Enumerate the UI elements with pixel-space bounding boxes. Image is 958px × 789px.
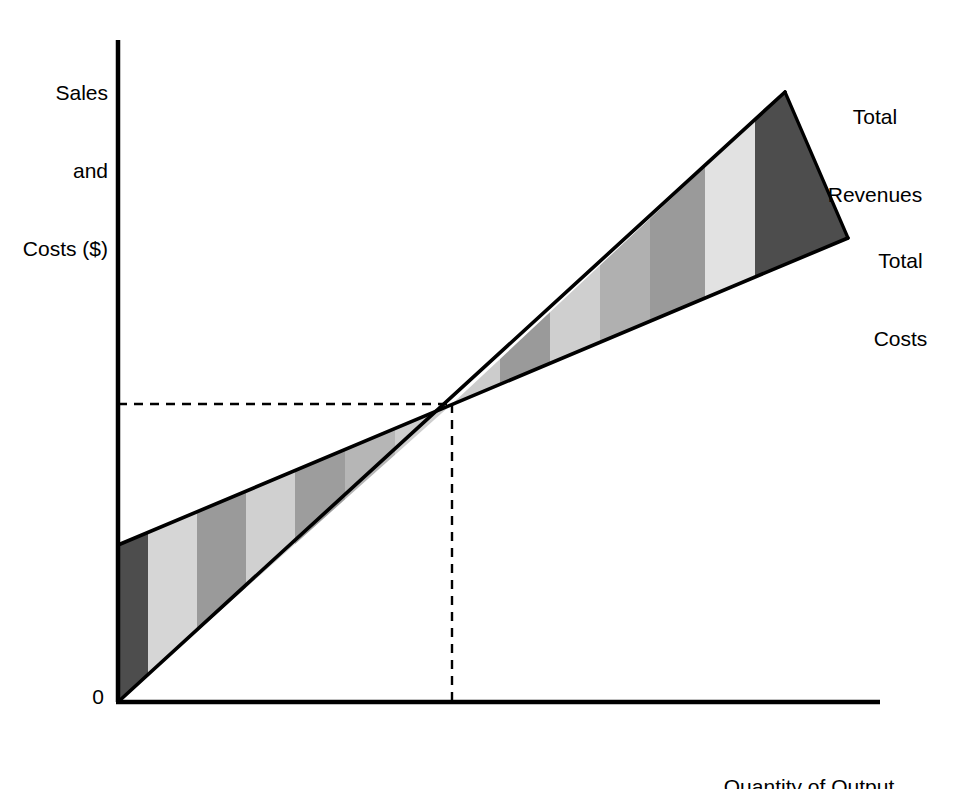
y-axis-label-line-1: Sales: [0, 80, 108, 106]
profit-band-1: [448, 60, 500, 420]
profit-band-3: [550, 60, 600, 420]
profit-band-6: [705, 60, 755, 420]
total-costs-label-line-1: Total: [848, 248, 953, 274]
loss-band-7: [395, 380, 455, 720]
origin-tick-label: 0: [74, 684, 104, 710]
loss-band-3: [197, 380, 246, 720]
profit-region: [448, 60, 853, 420]
total-costs-label-line-2: Costs: [848, 326, 953, 352]
loss-band-5: [295, 380, 345, 720]
loss-band-4: [246, 380, 295, 720]
y-axis-label: Sales and Costs ($): [0, 28, 108, 314]
total-revenues-line: [118, 92, 785, 702]
y-axis-label-line-3: Costs ($): [0, 236, 108, 262]
x-axis-label-line-1: Quantity of Output: [660, 774, 958, 789]
y-axis-label-line-2: and: [0, 158, 108, 184]
total-revenues-label-line-1: Total: [800, 104, 950, 130]
cvp-chart: Sales and Costs ($) 0 Total Revenues Tot…: [0, 0, 958, 789]
x-axis-label: Quantity of Output (sales volume): [660, 722, 958, 789]
total-costs-label: Total Costs: [848, 196, 953, 404]
total-costs-line: [118, 238, 848, 545]
profit-band-5: [650, 60, 705, 420]
